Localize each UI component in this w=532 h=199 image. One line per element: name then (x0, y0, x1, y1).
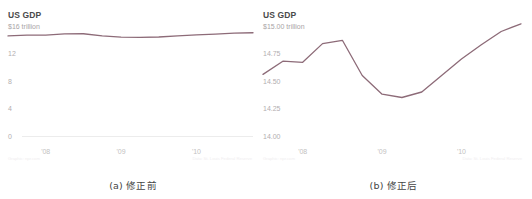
gdp-line-path (263, 24, 521, 98)
x-axis-tick-label: '08 (41, 148, 50, 155)
gdp-line-chart-svg (263, 26, 521, 136)
credit-source-right: Data: St. Louis Federal Reserve (462, 157, 522, 161)
panel-caption-after: (b) 修正后 (255, 178, 532, 192)
credit-source-left: Graphic: npr.com (263, 157, 295, 161)
x-axis-tick-label: '08 (298, 148, 307, 155)
panel-caption-before: (a) 修正前 (0, 178, 266, 192)
credit-source-left: Graphic: npr.com (8, 157, 40, 161)
x-axis-tick-label: '09 (378, 148, 387, 155)
gdp-line-path (8, 33, 253, 38)
chart-panel-before: US GDP $16 trillion12840 '08'09'10 Graph… (0, 0, 266, 199)
x-axis-tick-label: '10 (192, 148, 201, 155)
plot-area: $15.00 trillion14.7514.5014.2514.00 '08'… (263, 26, 521, 136)
figure-gdp-axis-comparison: US GDP $16 trillion12840 '08'09'10 Graph… (0, 0, 532, 199)
chart-panel-after: US GDP $15.00 trillion14.7514.5014.2514.… (255, 0, 532, 199)
axis-baseline (22, 136, 253, 137)
gdp-line-chart-svg (8, 26, 253, 136)
chart-after: US GDP $15.00 trillion14.7514.5014.2514.… (255, 0, 532, 170)
plot-area: $16 trillion12840 '08'09'10 (8, 26, 253, 136)
x-axis-tick-label: '09 (117, 148, 126, 155)
chart-title: US GDP (263, 10, 296, 20)
x-axis-tick-label: '10 (457, 148, 466, 155)
chart-title: US GDP (8, 10, 41, 20)
chart-before: US GDP $16 trillion12840 '08'09'10 Graph… (0, 0, 266, 170)
credit-source-right: Data: St. Louis Federal Reserve (192, 157, 252, 161)
